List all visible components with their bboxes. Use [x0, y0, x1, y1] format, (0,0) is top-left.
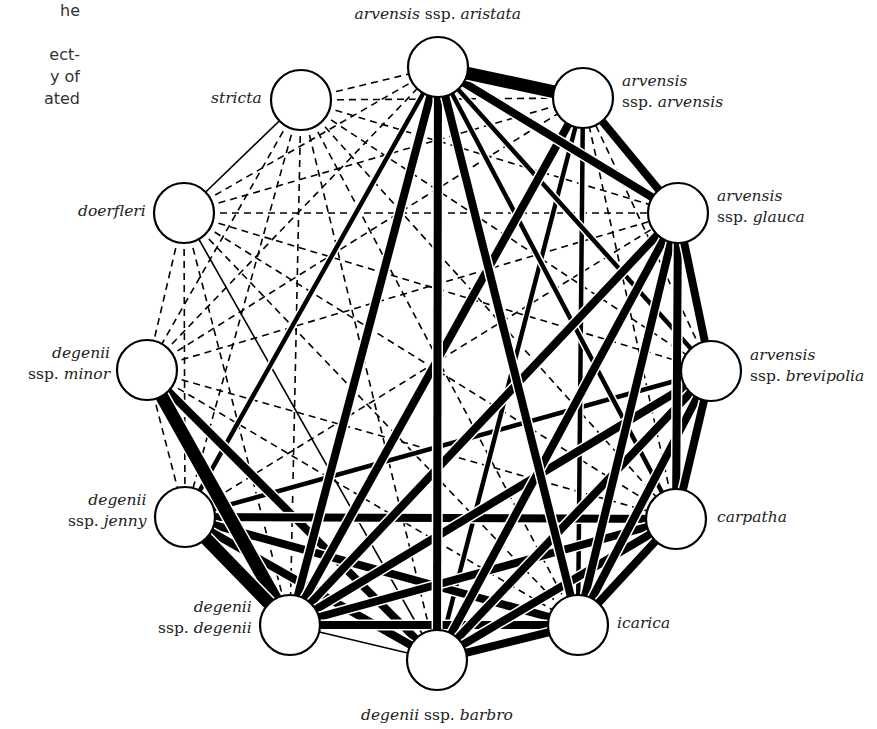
label-icarica: icarica	[617, 613, 670, 634]
label-degenii: degeniissp. degenii	[158, 597, 252, 639]
label-carpatha: carpatha	[717, 507, 787, 528]
edge-barbro-aristata	[437, 67, 438, 660]
edge-stricta-glauca	[301, 100, 678, 213]
node-icarica	[548, 595, 608, 655]
label-doerfleri: doerfleri	[78, 201, 146, 222]
node-brevipolia	[681, 341, 741, 401]
label-barbro: degenii ssp. barbro	[361, 705, 513, 726]
label-jenny: degeniissp. jenny	[68, 490, 146, 532]
label-minor: degeniissp. minor	[28, 343, 110, 385]
node-aristata	[408, 37, 468, 97]
node-arvensis	[553, 68, 613, 128]
edge-layer	[147, 67, 711, 660]
node-stricta	[271, 70, 331, 130]
node-barbro	[407, 630, 467, 690]
edge-carpatha-glauca	[676, 213, 678, 519]
node-jenny	[155, 487, 215, 547]
node-doerfleri	[154, 183, 214, 243]
edge-doerfleri-jenny	[184, 213, 185, 517]
label-arvensis: arvensisssp. arvensis	[622, 71, 723, 113]
node-degenii	[260, 595, 320, 655]
label-stricta: stricta	[211, 88, 262, 109]
node-carpatha	[646, 489, 706, 549]
network-diagram	[0, 0, 877, 729]
label-brevipolia: arvensisssp. brevipolia	[750, 345, 864, 387]
label-aristata: arvensis ssp. aristata	[355, 4, 522, 25]
node-glauca	[648, 183, 708, 243]
node-minor	[117, 340, 177, 400]
label-glauca: arvensisssp. glauca	[717, 186, 805, 228]
